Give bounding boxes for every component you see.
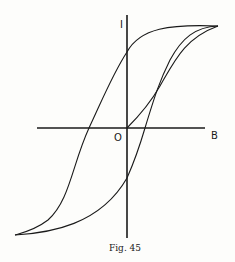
initial-magnetization-curve <box>127 26 218 128</box>
vertical-axis-label: I <box>120 19 123 30</box>
descending-branch <box>15 26 218 235</box>
origin-label: O <box>114 132 122 143</box>
horizontal-axis-label: B <box>211 130 218 141</box>
figure-caption: Fig. 45 <box>109 243 141 253</box>
ascending-branch <box>15 26 218 235</box>
hysteresis-diagram: I B O Fig. 45 <box>0 0 235 262</box>
